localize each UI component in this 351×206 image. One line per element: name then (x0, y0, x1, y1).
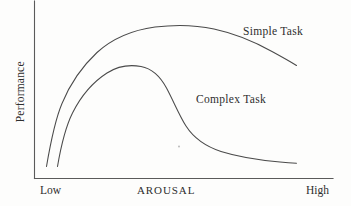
x-axis-tick-low: Low (40, 185, 61, 197)
x-axis-title: AROUSAL (137, 185, 195, 196)
x-axis-tick-high: High (306, 185, 329, 197)
simple-task-label: Simple Task (243, 26, 303, 38)
scan-speck-artifact (178, 146, 180, 148)
complex-task-curve (58, 66, 297, 167)
complex-task-label: Complex Task (196, 94, 266, 106)
arousal-performance-figure: Performance AROUSAL Low High Simple Task… (0, 0, 351, 206)
y-axis-title: Performance (15, 49, 27, 135)
